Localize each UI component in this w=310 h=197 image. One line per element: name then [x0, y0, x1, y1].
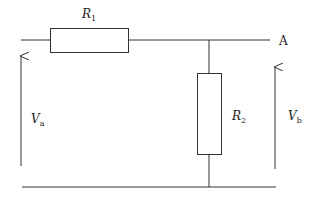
resistor-r2 [198, 74, 222, 155]
r1-label: R1 [81, 7, 96, 23]
vb-label: Vb [288, 109, 302, 125]
resistor-r1 [51, 29, 129, 53]
circuit-diagram: R1 A Va R2 Vb [0, 0, 310, 197]
va-label: Va [31, 112, 45, 128]
r2-label: R2 [231, 109, 246, 125]
node-a-label: A [278, 34, 288, 48]
